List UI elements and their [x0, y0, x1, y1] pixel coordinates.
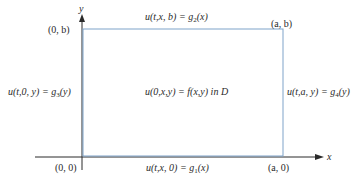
corner-top-right: (a, b) — [271, 18, 292, 30]
boundary-left-label: u(t,0, y) = g3(y) — [8, 86, 71, 98]
y-axis-arrowhead-icon — [79, 14, 85, 22]
x-axis-label: x — [327, 151, 331, 163]
boundary-bottom-label: u(t,x, 0) = g1(x) — [146, 162, 209, 174]
x-axis-arrowhead-icon — [315, 154, 324, 160]
y-axis-label: y — [79, 3, 83, 15]
boundary-top-label: u(t,x, b) = g2(x) — [145, 11, 208, 23]
boundary-right-label: u(t,a, y) = g4(y) — [287, 86, 350, 98]
corner-bottom-right: (a, 0) — [268, 162, 289, 174]
interior-condition-label: u(0,x,y) = f(x,y) in D — [145, 86, 228, 98]
corner-top-left: (0, b) — [48, 24, 70, 36]
corner-origin: (0, 0) — [55, 162, 77, 174]
